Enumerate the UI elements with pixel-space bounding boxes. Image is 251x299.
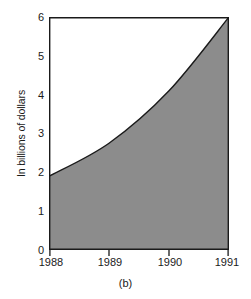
plot-area [49,17,229,250]
y-axis-tick-labels: 0 1 2 3 4 5 6 [26,0,44,299]
x-tick-label-1989: 1989 [80,256,140,268]
y-tick-label-0: 0 [30,245,44,256]
x-tick-label-1990: 1990 [140,256,200,268]
y-tick-label-4: 4 [30,90,44,101]
x-axis-tick-labels: 1988 1989 1990 1991 [0,256,251,272]
y-tick-label-1: 1 [30,206,44,217]
y-tick-label-3: 3 [30,128,44,139]
figure-caption: (b) [0,277,251,290]
y-tick-label-6: 6 [30,12,44,23]
x-tick-label-1988: 1988 [21,256,81,268]
x-tick-label-1991: 1991 [197,256,251,268]
plot-svg [49,17,229,250]
y-tick-label-2: 2 [30,167,44,178]
y-tick-label-5: 5 [30,51,44,62]
area-chart-figure: In billions of dollars 0 1 2 3 4 5 6 [0,0,251,299]
